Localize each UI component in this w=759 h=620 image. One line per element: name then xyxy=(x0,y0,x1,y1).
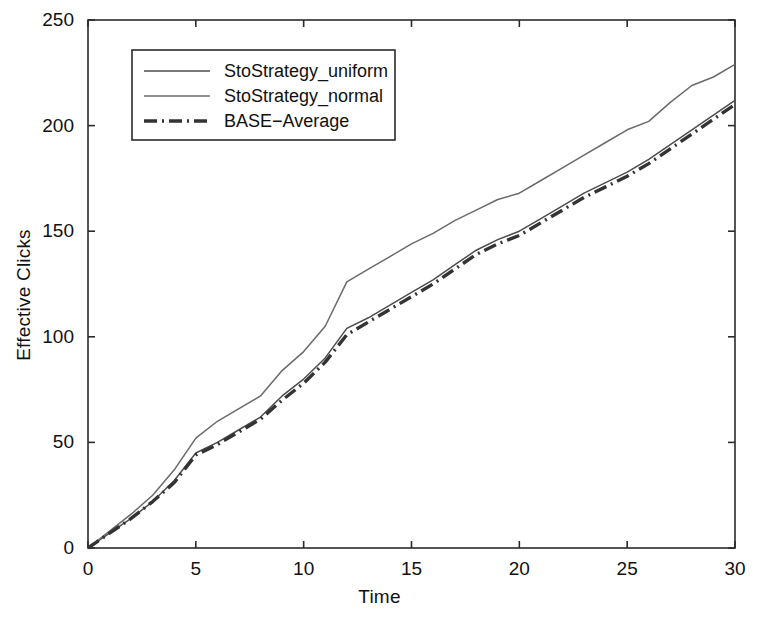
x-tick-label: 10 xyxy=(293,558,314,580)
x-tick-label: 25 xyxy=(617,558,638,580)
series-line xyxy=(88,104,735,548)
chart-figure: StoStrategy_uniformStoStrategy_normalBAS… xyxy=(0,0,759,620)
y-axis-label: Effective Clicks xyxy=(13,195,35,395)
x-tick-label: 30 xyxy=(724,558,745,580)
x-tick-label: 15 xyxy=(401,558,422,580)
y-tick-label: 50 xyxy=(0,431,74,453)
x-axis-label: Time xyxy=(0,586,759,608)
x-tick-label: 20 xyxy=(509,558,530,580)
plot-canvas xyxy=(0,0,759,620)
y-tick-label: 150 xyxy=(0,220,74,242)
legend-border xyxy=(132,50,395,140)
x-tick-label: 0 xyxy=(83,558,94,580)
legend-box xyxy=(132,50,395,140)
x-tick-label: 5 xyxy=(191,558,202,580)
y-tick-label: 0 xyxy=(0,537,74,559)
y-tick-label: 100 xyxy=(0,326,74,348)
series-line xyxy=(88,100,735,548)
y-tick-label: 200 xyxy=(0,115,74,137)
y-tick-label: 250 xyxy=(0,9,74,31)
